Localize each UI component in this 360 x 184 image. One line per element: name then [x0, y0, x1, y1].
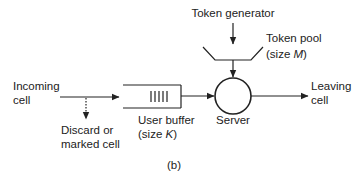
buffer-cells: [151, 91, 167, 102]
discard-label: Discard or: [61, 124, 114, 136]
incoming-label: Incoming: [13, 80, 60, 92]
token-bucket-diagram: Token generator Token pool (size M) Inco…: [0, 0, 360, 184]
token-pool-label: Token pool: [266, 32, 322, 44]
figure-caption: (b): [167, 159, 181, 171]
server-label: Server: [216, 114, 250, 126]
buffer-size-label: (size K): [138, 128, 177, 140]
leaving-label-2: cell: [311, 94, 328, 106]
discard-label-2: marked cell: [61, 138, 120, 150]
incoming-label-2: cell: [13, 94, 30, 106]
buffer-label: User buffer: [138, 114, 195, 126]
token-generator-label: Token generator: [191, 7, 274, 19]
server-circle: [215, 78, 251, 114]
token-pool-size-label: (size M): [266, 48, 307, 60]
leaving-label: Leaving: [311, 80, 351, 92]
token-pool-shape: [203, 47, 263, 60]
